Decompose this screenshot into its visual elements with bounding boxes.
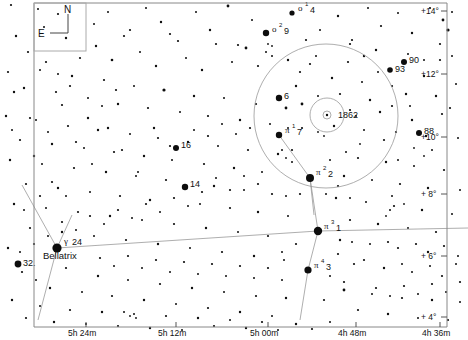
field-star [261, 171, 263, 173]
field-star [397, 247, 399, 249]
field-star [403, 203, 405, 205]
field-star [407, 227, 409, 229]
field-star [225, 275, 227, 277]
field-star [229, 207, 231, 209]
field-star [417, 317, 419, 319]
ra-tick-label-0: 5h 24m [68, 328, 96, 338]
field-star [441, 275, 443, 277]
field-star [343, 289, 346, 292]
field-star [277, 153, 279, 155]
field-star [295, 85, 297, 87]
field-star [169, 271, 171, 273]
field-star [117, 209, 119, 211]
labeled-star-hr6 [276, 95, 282, 101]
field-star [177, 40, 179, 42]
field-star [57, 187, 59, 189]
field-star [11, 129, 13, 131]
field-star [169, 145, 171, 147]
named-star-number-bellatrix: 24 [72, 237, 82, 247]
field-star [53, 321, 55, 323]
field-star [213, 185, 215, 187]
field-star [211, 263, 213, 265]
field-star [187, 205, 189, 207]
field-star [107, 127, 109, 129]
field-star [183, 261, 185, 263]
field-star [91, 163, 93, 165]
field-star [247, 149, 249, 151]
field-star [57, 13, 59, 15]
field-star [229, 189, 231, 191]
field-star [93, 23, 95, 25]
field-star [457, 255, 459, 257]
star-number-omicron1: 4 [310, 5, 315, 15]
field-star [131, 217, 133, 219]
field-star [421, 209, 423, 211]
field-star [125, 239, 127, 241]
field-star [299, 193, 301, 195]
field-star [229, 319, 231, 321]
field-star [61, 104, 63, 106]
field-star [435, 231, 437, 233]
field-star [379, 111, 381, 113]
field-star [27, 51, 29, 53]
sky-map-canvas: 1862 ο14ο299390886π17π22π31π43161432. γ2… [0, 0, 468, 340]
field-star [329, 275, 331, 277]
field-star [317, 131, 319, 133]
field-star [215, 43, 217, 45]
field-star [455, 83, 457, 85]
field-star [83, 147, 85, 149]
field-star [179, 111, 181, 113]
field-star [451, 55, 453, 57]
field-star [451, 213, 453, 215]
field-star [311, 328, 313, 330]
field-star [459, 301, 461, 303]
field-star [291, 149, 293, 151]
field-star [81, 291, 83, 293]
field-star [109, 215, 111, 217]
field-star [135, 175, 137, 177]
field-star [331, 77, 333, 79]
ra-tick-label-2: 5h 00m [250, 328, 278, 338]
field-star [377, 71, 379, 73]
field-star [199, 203, 201, 205]
field-star [129, 29, 131, 31]
field-star [435, 95, 437, 97]
labeled-star-pi4 [304, 266, 311, 273]
star-number-pi4: 3 [326, 262, 331, 272]
field-star [455, 263, 457, 265]
compass-east-label: E [38, 28, 45, 39]
field-star [67, 125, 69, 127]
field-star [431, 149, 433, 151]
field-star [157, 137, 159, 139]
field-star [283, 259, 285, 261]
field-star [459, 189, 461, 191]
star-number-pi3: 1 [336, 223, 341, 233]
dec-tick-label-4: + 6° [421, 251, 436, 261]
field-star [339, 239, 341, 241]
field-star [387, 241, 389, 243]
field-star [113, 265, 115, 267]
field-star [15, 35, 17, 37]
field-star [397, 159, 399, 161]
field-star [127, 279, 129, 281]
field-star [185, 57, 187, 59]
field-star [107, 11, 109, 13]
field-star [231, 61, 233, 63]
field-star [87, 97, 89, 99]
field-star [271, 193, 273, 195]
field-star [95, 45, 97, 47]
field-star [89, 191, 91, 193]
field-star [61, 231, 63, 233]
field-star [175, 303, 177, 305]
field-star [135, 317, 137, 319]
field-star [271, 45, 273, 47]
field-star [223, 97, 225, 99]
labeled-star-omicron1 [289, 10, 294, 15]
field-star [221, 251, 223, 253]
field-star [261, 321, 263, 323]
field-star [299, 71, 301, 73]
field-star [45, 61, 47, 63]
labeled-star-hr90 [401, 59, 407, 65]
field-star [25, 317, 27, 319]
field-star [345, 151, 347, 153]
